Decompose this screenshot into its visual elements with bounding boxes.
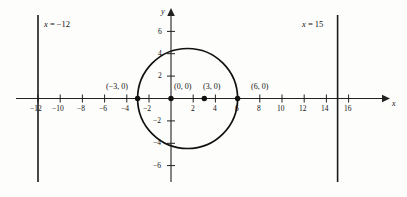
y-tick-label-neg2: −2 xyxy=(153,117,161,125)
point-0-0-dot xyxy=(168,96,173,101)
coordinate-plane-figure: x = −12 x = 15 (−3, 0) (0, 0) (3, 0) (6,… xyxy=(0,0,407,197)
y-tick-label-neg6: −6 xyxy=(153,162,161,170)
x-tick-label-4: 4 xyxy=(213,105,217,113)
x-tick-label-10: 10 xyxy=(277,105,285,113)
point-6-0-label: (6, 0) xyxy=(251,83,268,91)
x-tick-label-16: 16 xyxy=(344,105,352,113)
x-tick-label-neg2: −2 xyxy=(143,105,151,113)
x-tick-label-neg8: −8 xyxy=(77,105,85,113)
point-0-0-label: (0, 0) xyxy=(174,83,191,91)
point-3-0-dot xyxy=(202,96,207,101)
right-vertical-line-label: x = 15 xyxy=(302,20,323,29)
x-tick-label-14: 14 xyxy=(321,105,329,113)
point-neg3-0-label: (−3, 0) xyxy=(106,83,128,91)
left-line-eq: = −12 xyxy=(48,19,70,29)
point-3-0-label: (3, 0) xyxy=(203,83,220,91)
y-axis-label: y xyxy=(161,8,165,16)
x-axis-label: x xyxy=(392,100,396,108)
left-vertical-line-label: x = −12 xyxy=(44,20,70,29)
y-tick-label-neg4: −4 xyxy=(153,139,161,147)
x-tick-label-neg10: −10 xyxy=(52,105,64,113)
y-axis xyxy=(167,8,175,182)
y-tick-label-6: 6 xyxy=(158,28,162,36)
right-line-eq: = 15 xyxy=(306,19,324,29)
y-tick-label-2: 2 xyxy=(158,72,162,80)
plot-canvas xyxy=(0,0,407,197)
x-tick-label-6: 6 xyxy=(235,105,239,113)
x-tick-label-neg4: −4 xyxy=(121,105,129,113)
point-neg3-0-dot xyxy=(135,96,140,101)
y-tick-label-4: 4 xyxy=(158,50,162,58)
x-tick-label-neg6: −6 xyxy=(99,105,107,113)
x-tick-label-neg12: −12 xyxy=(30,105,42,113)
x-tick-label-12: 12 xyxy=(299,105,307,113)
x-tick-label-8: 8 xyxy=(257,105,261,113)
point-6-0-dot xyxy=(235,96,240,101)
x-tick-label-2: 2 xyxy=(191,105,195,113)
